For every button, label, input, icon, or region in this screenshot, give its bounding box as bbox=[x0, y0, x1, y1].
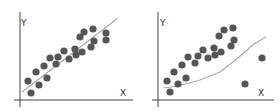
data-point bbox=[40, 62, 47, 69]
data-point bbox=[60, 47, 67, 54]
x-axis-label: X bbox=[258, 88, 264, 98]
data-point bbox=[78, 48, 85, 55]
data-point bbox=[166, 88, 173, 95]
data-point bbox=[170, 68, 177, 75]
data-point bbox=[52, 60, 59, 67]
data-point bbox=[102, 29, 109, 36]
data-point bbox=[24, 77, 31, 84]
data-point bbox=[199, 46, 206, 53]
fit-line bbox=[22, 18, 118, 92]
data-point bbox=[35, 81, 42, 88]
data-point bbox=[229, 24, 236, 31]
y-axis-label: Y bbox=[20, 18, 27, 28]
data-point bbox=[80, 28, 87, 35]
data-point bbox=[215, 32, 222, 39]
data-point bbox=[54, 53, 61, 60]
right-chart: Y X bbox=[152, 12, 274, 107]
data-point bbox=[27, 89, 34, 96]
left-chart: Y X bbox=[14, 12, 133, 107]
data-point bbox=[89, 25, 96, 32]
data-points bbox=[24, 25, 109, 96]
data-point bbox=[46, 54, 53, 61]
data-point bbox=[258, 54, 265, 61]
data-point bbox=[194, 52, 201, 59]
data-point bbox=[102, 36, 109, 43]
data-point bbox=[32, 68, 39, 75]
x-axis-label: X bbox=[120, 88, 126, 98]
data-point bbox=[184, 53, 191, 60]
charts: Y X Y X bbox=[0, 0, 280, 111]
data-point bbox=[217, 48, 224, 55]
data-point bbox=[163, 77, 170, 84]
data-point bbox=[43, 74, 50, 81]
data-point bbox=[65, 55, 72, 62]
data-point bbox=[204, 54, 211, 61]
data-point bbox=[182, 74, 189, 81]
data-point bbox=[241, 80, 248, 87]
y-axis-label: Y bbox=[159, 18, 166, 28]
data-point bbox=[191, 59, 198, 66]
data-points bbox=[163, 24, 265, 95]
data-point bbox=[178, 61, 185, 68]
data-point bbox=[227, 42, 234, 49]
data-point bbox=[87, 43, 94, 50]
data-point bbox=[174, 80, 181, 87]
data-point bbox=[210, 44, 217, 51]
data-point bbox=[71, 45, 78, 52]
data-point bbox=[220, 26, 227, 33]
